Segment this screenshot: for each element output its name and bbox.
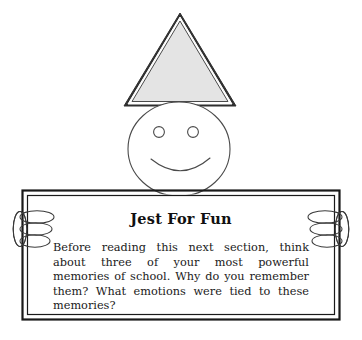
sign-body-text: Before reading this next section, think … [53,241,309,314]
right-eye-icon [188,127,199,138]
head-circle [128,102,230,196]
left-eye-icon [154,127,165,138]
party-hat-icon [124,13,236,106]
sign-content: Jest For Fun Before reading this next se… [30,196,332,314]
illustration-page: Jest For Fun Before reading this next se… [0,0,362,340]
sign-title: Jest For Fun [30,210,332,227]
